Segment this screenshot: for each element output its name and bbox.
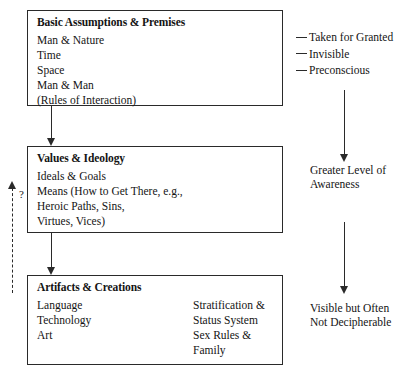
arrow-head-down-icon (47, 138, 55, 146)
arrow-shaft (51, 106, 52, 139)
arrow-head-down-icon (340, 154, 348, 162)
arrow-values-to-artifacts (45, 233, 58, 275)
arrow-awareness-gradient-upper (338, 90, 351, 162)
annotation-list-item-label: Invisible (309, 48, 349, 60)
arrow-shaft (51, 233, 52, 268)
box-artifacts-creations: Artifacts & Creations Language Technolog… (27, 275, 283, 365)
box-values-ideology-items: Ideals & Goals Means (How to Get There, … (37, 169, 183, 229)
arrow-shaft (344, 222, 345, 286)
arrow-awareness-gradient-lower (338, 222, 351, 294)
feedback-arrow-label: ? (19, 188, 24, 200)
box-values-ideology-title: Values & Ideology (37, 152, 125, 164)
annotation-list-item-label: Taken for Granted (309, 31, 393, 43)
annotation-list-item: Preconscious (296, 62, 393, 79)
box-artifacts-creations-column-2: Stratification & Status System Sex Rules… (193, 298, 265, 358)
annotation-list-item: Taken for Granted (296, 29, 393, 46)
dash-icon (296, 37, 307, 38)
box-basic-assumptions-title: Basic Assumptions & Premises (37, 16, 185, 28)
box-basic-assumptions-items: Man & Nature Time Space Man & Man (Rules… (37, 33, 136, 108)
annotation-list-item-label: Preconscious (309, 64, 370, 76)
box-artifacts-creations-column-1: Language Technology Art (37, 298, 91, 343)
annotation-greater-level-of-awareness: Greater Level of Awareness (310, 163, 386, 191)
box-values-ideology: Values & Ideology Ideals & Goals Means (… (27, 146, 283, 233)
box-artifacts-creations-title: Artifacts & Creations (37, 281, 141, 293)
arrow-shaft (344, 90, 345, 154)
annotation-dash-list: Taken for Granted Invisible Preconscious (296, 29, 393, 79)
arrow-head-down-icon (47, 267, 55, 275)
annotation-list-item: Invisible (296, 46, 393, 63)
culture-levels-diagram: Basic Assumptions & Premises Man & Natur… (0, 0, 408, 378)
arrow-shaft-dashed (12, 188, 13, 293)
arrow-head-down-icon (340, 286, 348, 294)
annotation-visible-but-often-not-decipherable: Visible but Often Not Decipherable (310, 301, 391, 329)
dash-icon (296, 53, 307, 54)
arrow-assumptions-to-values (45, 106, 58, 146)
dash-icon (296, 70, 307, 71)
feedback-arrow-artifacts-to-values (6, 181, 19, 293)
box-basic-assumptions: Basic Assumptions & Premises Man & Natur… (27, 10, 283, 106)
